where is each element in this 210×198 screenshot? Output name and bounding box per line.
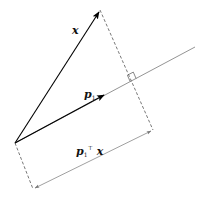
perpendicular-dashed-line — [100, 10, 153, 130]
projection-length-dimension — [35, 131, 151, 188]
x-vector-arrow — [15, 12, 99, 143]
projection-label: p1⊤ x — [76, 145, 103, 158]
projection-diagram — [0, 0, 210, 198]
right-angle-marker — [127, 72, 136, 82]
p1-vector-arrow — [15, 95, 104, 143]
p1-vector-label: p1 — [84, 89, 96, 101]
origin-dashed-line — [15, 143, 33, 189]
x-vector-label: x — [72, 25, 79, 36]
